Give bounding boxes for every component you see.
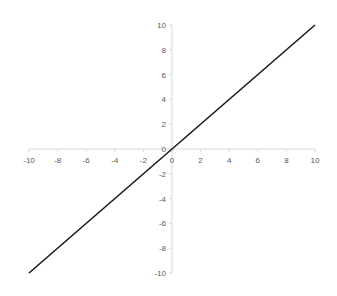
- x-tick-label: 8: [284, 156, 289, 165]
- x-tick-label: -8: [54, 156, 62, 165]
- y-tick-label: 10: [157, 21, 166, 30]
- y-tick-label: 0: [162, 145, 167, 154]
- line-chart: -10-8-6-4-20246810 -10-8-6-4-20246810: [0, 0, 337, 296]
- y-tick-label: -4: [159, 195, 167, 204]
- x-tick-label: 6: [256, 156, 261, 165]
- y-tick-label: 4: [162, 95, 167, 104]
- y-tick-label: 6: [162, 71, 167, 80]
- y-tick-label: 8: [162, 46, 167, 55]
- y-tick-label: 2: [162, 120, 167, 129]
- x-tick-label: 10: [311, 156, 320, 165]
- x-tick-label: 4: [227, 156, 232, 165]
- y-tick-label: -10: [154, 269, 166, 278]
- x-tick-label: -10: [23, 156, 35, 165]
- x-tick-label: -6: [83, 156, 91, 165]
- y-tick-label: -6: [159, 219, 167, 228]
- x-tick-labels: -10-8-6-4-20246810: [23, 156, 320, 165]
- x-tick-label: -4: [111, 156, 119, 165]
- y-tick-label: -2: [159, 170, 167, 179]
- x-tick-label: 0: [170, 156, 175, 165]
- x-tick-label: -2: [140, 156, 148, 165]
- y-tick-label: -8: [159, 244, 167, 253]
- x-tick-label: 2: [198, 156, 203, 165]
